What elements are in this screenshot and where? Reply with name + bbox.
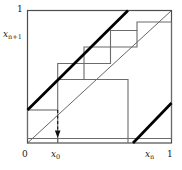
x-axis-tick-label-1: 1 xyxy=(167,150,173,159)
xn-label-sub: n xyxy=(150,153,154,161)
x-axis-tick-label-xn: xn xyxy=(145,150,154,159)
x0-label-sub: 0 xyxy=(56,153,60,161)
y-axis-label-sub: n+1 xyxy=(8,33,22,41)
x-axis-tick-label-0: 0 xyxy=(22,150,28,159)
cobweb-plot-canvas xyxy=(0,0,182,170)
cobweb-figure: 1 xn+1 0 x0 xn 1 xyxy=(0,0,182,170)
x-axis-tick-label-x0: x0 xyxy=(51,150,60,159)
y-axis-tick-label-1: 1 xyxy=(17,5,23,14)
y-axis-label: xn+1 xyxy=(3,30,22,39)
